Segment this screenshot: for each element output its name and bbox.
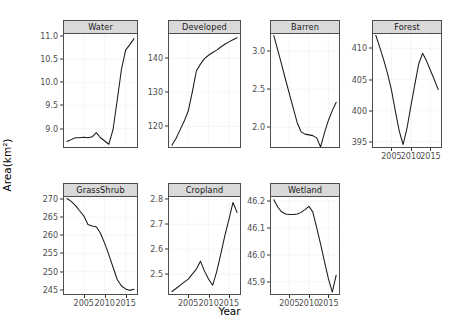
plot-area-cropland [168, 196, 241, 295]
x-tick-label-forest-2: 2015 [420, 152, 440, 161]
y-tick-mark [165, 92, 168, 93]
y-tick-label-grassshrub-3: 260 [27, 231, 58, 240]
y-tick-mark [60, 105, 63, 106]
x-tick-label-cropland-2: 2015 [219, 299, 239, 308]
y-tick-label-developed-1: 130 [132, 88, 163, 97]
y-tick-label-wetland-2: 46.1 [234, 223, 265, 232]
y-tick-label-wetland-0: 45.9 [234, 277, 265, 286]
y-tick-mark [60, 253, 63, 254]
chart-root: Area(km²) Year WaterDevelopedBarrenFores… [0, 0, 453, 329]
facet-strip-label-barren: Barren [270, 20, 340, 34]
facet-strip-label-grassshrub: GrassShrub [63, 183, 138, 197]
x-tick-mark [391, 148, 392, 151]
plot-area-grassshrub [63, 196, 138, 295]
facet-panel-barren: Barren [270, 20, 340, 148]
plot-area-barren [270, 33, 340, 148]
y-tick-label-barren-0: 2.0 [234, 123, 265, 132]
y-tick-mark [60, 217, 63, 218]
y-tick-label-cropland-1: 2.6 [132, 245, 163, 254]
y-tick-mark [267, 51, 270, 52]
y-tick-mark [165, 57, 168, 58]
x-tick-mark [209, 295, 210, 298]
y-tick-label-grassshrub-4: 265 [27, 213, 58, 222]
facet-panel-wetland: Wetland [270, 183, 340, 295]
x-tick-label-cropland-1: 2010 [198, 299, 218, 308]
y-tick-label-water-1: 9.5 [27, 101, 58, 110]
y-tick-label-water-0: 9.0 [27, 124, 58, 133]
y-tick-mark [369, 142, 372, 143]
x-tick-label-grassshrub-0: 2005 [74, 299, 94, 308]
plot-area-developed [168, 33, 241, 148]
y-tick-mark [267, 281, 270, 282]
x-tick-mark [309, 295, 310, 298]
y-tick-mark [267, 201, 270, 202]
y-axis-title-text: Area(km²) [1, 138, 13, 191]
plot-area-forest [372, 33, 442, 148]
facet-strip-label-developed: Developed [168, 20, 241, 34]
y-tick-label-barren-1: 2.5 [234, 85, 265, 94]
plot-area-water [63, 33, 138, 148]
y-tick-label-grassshrub-5: 270 [27, 195, 58, 204]
x-tick-label-forest-0: 2005 [381, 152, 401, 161]
y-tick-mark [267, 227, 270, 228]
y-tick-label-water-2: 10.0 [27, 78, 58, 87]
y-tick-mark [60, 235, 63, 236]
y-tick-mark [165, 274, 168, 275]
facet-strip-label-wetland: Wetland [270, 183, 340, 197]
y-tick-mark [60, 82, 63, 83]
facet-strip-label-forest: Forest [372, 20, 442, 34]
x-tick-mark [430, 148, 431, 151]
y-tick-label-forest-1: 400 [336, 106, 367, 115]
x-tick-label-forest-1: 2010 [401, 152, 421, 161]
y-tick-mark [165, 224, 168, 225]
x-tick-label-wetland-1: 2010 [299, 299, 319, 308]
x-tick-mark [126, 295, 127, 298]
y-tick-mark [267, 127, 270, 128]
facet-panel-water: Water [63, 20, 138, 148]
y-tick-mark [60, 271, 63, 272]
y-tick-label-wetland-3: 46.2 [234, 197, 265, 206]
y-tick-mark [165, 126, 168, 127]
y-tick-label-water-4: 11.0 [27, 32, 58, 41]
facet-strip-label-water: Water [63, 20, 138, 34]
y-tick-mark [267, 89, 270, 90]
y-tick-mark [165, 249, 168, 250]
x-tick-label-grassshrub-1: 2010 [94, 299, 114, 308]
y-tick-label-forest-3: 410 [336, 44, 367, 53]
y-tick-mark [60, 199, 63, 200]
y-tick-mark [369, 79, 372, 80]
x-tick-label-cropland-0: 2005 [178, 299, 198, 308]
x-tick-mark [188, 295, 189, 298]
y-tick-label-forest-2: 405 [336, 75, 367, 84]
y-tick-label-developed-2: 140 [132, 53, 163, 62]
y-tick-mark [165, 199, 168, 200]
y-tick-label-cropland-0: 2.5 [132, 270, 163, 279]
y-tick-mark [369, 48, 372, 49]
y-tick-label-wetland-1: 46.0 [234, 250, 265, 259]
x-tick-mark [84, 295, 85, 298]
facet-strip-label-cropland: Cropland [168, 183, 241, 197]
x-tick-label-wetland-0: 2005 [279, 299, 299, 308]
y-tick-label-developed-0: 120 [132, 122, 163, 131]
x-tick-label-grassshrub-2: 2015 [115, 299, 135, 308]
y-tick-label-water-3: 10.5 [27, 55, 58, 64]
facet-panel-cropland: Cropland [168, 183, 241, 295]
y-tick-label-forest-0: 395 [336, 138, 367, 147]
y-tick-mark [369, 110, 372, 111]
x-tick-mark [328, 295, 329, 298]
x-tick-mark [411, 148, 412, 151]
x-tick-label-wetland-2: 2015 [318, 299, 338, 308]
x-tick-mark [289, 295, 290, 298]
facet-panel-forest: Forest [372, 20, 442, 148]
x-tick-mark [229, 295, 230, 298]
y-tick-label-grassshrub-2: 255 [27, 249, 58, 258]
y-tick-mark [267, 254, 270, 255]
facet-panel-developed: Developed [168, 20, 241, 148]
facet-panel-grassshrub: GrassShrub [63, 183, 138, 295]
y-tick-mark [60, 59, 63, 60]
x-tick-mark [105, 295, 106, 298]
y-tick-mark [60, 128, 63, 129]
plot-area-wetland [270, 196, 340, 295]
y-tick-label-cropland-2: 2.7 [132, 220, 163, 229]
y-tick-label-grassshrub-0: 245 [27, 285, 58, 294]
